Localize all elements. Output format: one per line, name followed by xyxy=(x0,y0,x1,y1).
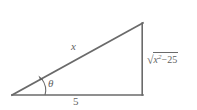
vertical-leg-radical-label: √x2−25 xyxy=(147,52,178,66)
radicand-constant: 25 xyxy=(167,54,177,65)
angle-arc-icon xyxy=(42,79,46,96)
triangle-figure: x 5 θ √x2−25 xyxy=(0,0,197,110)
triangle-hypotenuse-line xyxy=(12,23,143,95)
hypotenuse-label: x xyxy=(71,41,76,52)
base-length-label: 5 xyxy=(73,96,79,107)
radicand-group: x2−25 xyxy=(153,52,179,65)
angle-theta-label: θ xyxy=(48,78,53,89)
